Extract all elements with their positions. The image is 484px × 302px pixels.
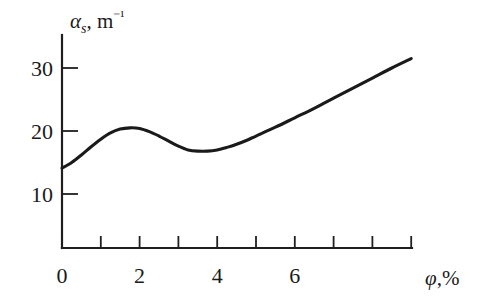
x-axis-title: φ,% bbox=[425, 266, 459, 290]
y-tick-label-30: 30 bbox=[31, 56, 53, 81]
x-axis-title-unit: % bbox=[442, 266, 460, 290]
y-axis-title-unit: m bbox=[97, 9, 113, 33]
x-tick-label-0: 0 bbox=[57, 263, 68, 288]
line-chart: 30 20 10 0 2 4 6 αs, m⁻¹ φ,% bbox=[0, 0, 484, 302]
x-axis-title-symbol: φ bbox=[425, 266, 437, 290]
y-tick-label-10: 10 bbox=[31, 182, 53, 207]
y-tick-labels: 30 20 10 bbox=[31, 56, 53, 207]
y-axis-title-unit-exponent: ⁻¹ bbox=[113, 9, 124, 24]
y-axis-title-separator: , bbox=[86, 9, 97, 33]
x-axis-ticks bbox=[62, 234, 411, 248]
y-tick-label-20: 20 bbox=[31, 119, 53, 144]
data-curve-alpha-s bbox=[62, 59, 411, 169]
y-axis-title: αs, m⁻¹ bbox=[70, 9, 125, 36]
figure-container: 30 20 10 0 2 4 6 αs, m⁻¹ φ,% bbox=[0, 0, 484, 302]
x-tick-labels: 0 2 4 6 bbox=[57, 263, 301, 288]
y-axis-ticks bbox=[62, 68, 78, 194]
x-tick-label-2: 2 bbox=[134, 263, 145, 288]
x-tick-label-6: 6 bbox=[289, 263, 300, 288]
x-tick-label-4: 4 bbox=[212, 263, 223, 288]
